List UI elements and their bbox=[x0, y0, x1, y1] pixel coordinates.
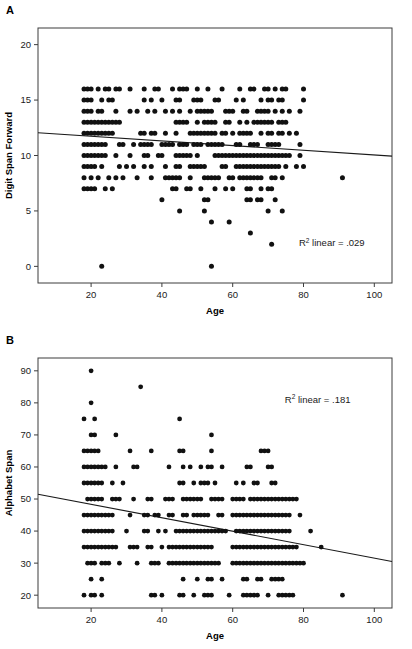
y-tick-label: 20 bbox=[20, 39, 31, 50]
data-point bbox=[124, 164, 129, 169]
data-point bbox=[135, 175, 140, 180]
data-point bbox=[89, 175, 94, 180]
data-point bbox=[230, 131, 235, 136]
data-point bbox=[177, 417, 182, 422]
y-tick-label: 20 bbox=[20, 590, 31, 601]
data-point bbox=[106, 86, 111, 91]
data-point bbox=[120, 175, 125, 180]
data-point bbox=[177, 175, 182, 180]
data-point bbox=[220, 142, 225, 147]
data-point bbox=[128, 86, 133, 91]
y-tick-label: 5 bbox=[26, 205, 31, 216]
data-point bbox=[294, 131, 299, 136]
data-point bbox=[174, 131, 179, 136]
data-point bbox=[163, 164, 168, 169]
data-point bbox=[160, 593, 165, 598]
data-point bbox=[237, 142, 242, 147]
y-tick-label: 60 bbox=[20, 461, 31, 472]
data-point bbox=[255, 593, 260, 598]
data-point bbox=[301, 164, 306, 169]
data-point bbox=[149, 142, 154, 147]
panel-b-plot: 204060801002030405060708090AgeAlphabet S… bbox=[0, 330, 412, 649]
data-point bbox=[103, 186, 108, 191]
data-point bbox=[294, 497, 299, 502]
data-point bbox=[269, 186, 274, 191]
data-point bbox=[142, 98, 147, 103]
data-point bbox=[149, 98, 154, 103]
data-point bbox=[209, 109, 214, 114]
data-point bbox=[188, 153, 193, 158]
data-point bbox=[227, 120, 232, 125]
data-point bbox=[89, 86, 94, 91]
data-point bbox=[103, 465, 108, 470]
data-point bbox=[266, 86, 271, 91]
data-point bbox=[287, 513, 292, 518]
data-point bbox=[99, 109, 104, 114]
data-point bbox=[227, 220, 232, 225]
x-tick-label: 40 bbox=[157, 289, 168, 300]
x-tick-label: 20 bbox=[86, 614, 97, 625]
data-point bbox=[103, 153, 108, 158]
data-point bbox=[276, 164, 281, 169]
data-point bbox=[259, 186, 264, 191]
data-point bbox=[223, 131, 228, 136]
data-point bbox=[273, 175, 278, 180]
data-point bbox=[191, 593, 196, 598]
data-point bbox=[294, 545, 299, 550]
data-point bbox=[283, 120, 288, 125]
data-point bbox=[131, 142, 136, 147]
x-tick-label: 100 bbox=[366, 614, 382, 625]
data-point bbox=[237, 86, 242, 91]
data-point bbox=[206, 481, 211, 486]
data-point bbox=[99, 264, 104, 269]
data-point bbox=[135, 109, 140, 114]
data-point bbox=[145, 529, 150, 534]
panel-a-plot: 2040608010005101520AgeDigit Span Forward… bbox=[0, 0, 412, 330]
data-point bbox=[213, 131, 218, 136]
data-point bbox=[216, 561, 221, 566]
data-point bbox=[121, 481, 126, 486]
data-point bbox=[110, 186, 115, 191]
x-tick-label: 60 bbox=[227, 289, 238, 300]
data-point bbox=[297, 109, 302, 114]
data-point bbox=[159, 153, 164, 158]
data-point bbox=[110, 98, 115, 103]
data-point bbox=[170, 497, 175, 502]
data-point bbox=[269, 98, 274, 103]
data-point bbox=[266, 449, 271, 454]
data-point bbox=[145, 153, 150, 158]
data-point bbox=[92, 561, 97, 566]
data-point bbox=[209, 545, 214, 550]
data-point bbox=[92, 417, 97, 422]
x-tick-label: 40 bbox=[157, 614, 168, 625]
data-point bbox=[82, 593, 87, 598]
data-point bbox=[297, 142, 302, 147]
data-point bbox=[269, 242, 274, 247]
data-point bbox=[163, 529, 168, 534]
data-point bbox=[266, 208, 271, 213]
data-point bbox=[280, 175, 285, 180]
data-point bbox=[167, 465, 172, 470]
data-point bbox=[135, 545, 140, 550]
data-point bbox=[96, 449, 101, 454]
data-point bbox=[269, 131, 274, 136]
data-point bbox=[177, 98, 182, 103]
data-point bbox=[209, 593, 214, 598]
data-point bbox=[117, 561, 122, 566]
data-point bbox=[283, 164, 288, 169]
data-point bbox=[301, 86, 306, 91]
data-point bbox=[163, 109, 168, 114]
data-point bbox=[160, 545, 165, 550]
data-point bbox=[298, 513, 303, 518]
data-point bbox=[138, 384, 143, 389]
data-point bbox=[259, 577, 264, 582]
data-point bbox=[89, 577, 94, 582]
r-squared-annotation: R2 linear = .181 bbox=[285, 393, 351, 405]
x-tick-label: 100 bbox=[366, 289, 382, 300]
data-point bbox=[170, 513, 175, 518]
data-point bbox=[184, 86, 189, 91]
data-point bbox=[195, 153, 200, 158]
data-point bbox=[266, 109, 271, 114]
data-point bbox=[269, 120, 274, 125]
y-tick-label: 40 bbox=[20, 525, 31, 536]
